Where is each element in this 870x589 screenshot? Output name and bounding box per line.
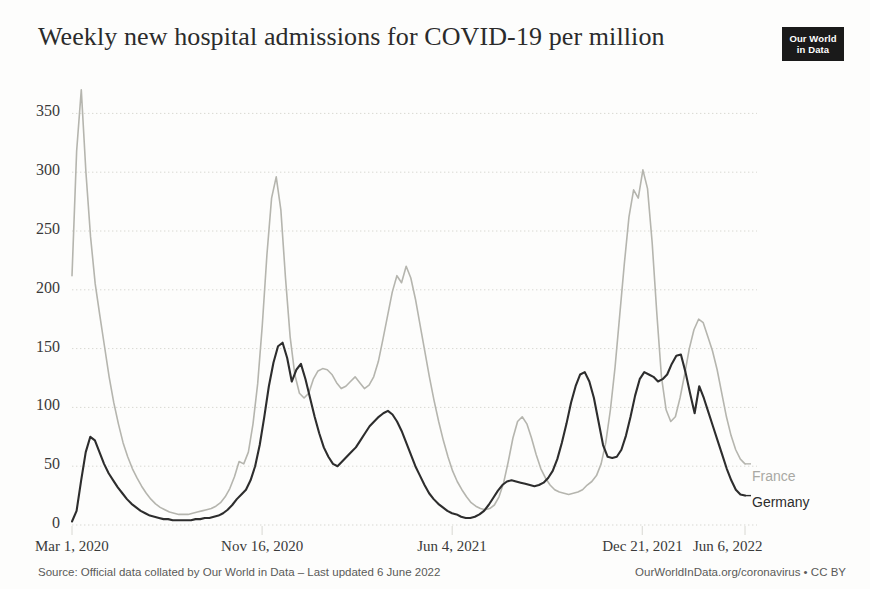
series-lines xyxy=(72,90,751,522)
y-tick-label: 250 xyxy=(20,220,60,238)
y-tick-label: 150 xyxy=(20,338,60,356)
x-axis-ticks xyxy=(72,526,745,535)
y-tick-label: 0 xyxy=(20,514,60,532)
series-label-france: France xyxy=(752,468,796,484)
y-tick-label: 50 xyxy=(20,455,60,473)
y-tick-label: 200 xyxy=(20,279,60,297)
footer-source-text: Source: Official data collated by Our Wo… xyxy=(38,566,440,578)
x-tick-label: Dec 21, 2021 xyxy=(602,538,682,555)
y-tick-label: 350 xyxy=(20,102,60,120)
x-tick-label: Nov 16, 2020 xyxy=(221,538,303,555)
plot-area: 050100150200250300350 Mar 1, 2020Nov 16,… xyxy=(0,0,870,589)
chart-page: Weekly new hospital admissions for COVID… xyxy=(0,0,870,589)
x-tick-label: Jun 6, 2022 xyxy=(693,538,763,555)
series-label-germany: Germany xyxy=(752,494,810,510)
line-chart-svg xyxy=(0,0,870,589)
y-tick-label: 100 xyxy=(20,396,60,414)
y-tick-label: 300 xyxy=(20,161,60,179)
x-tick-label: Jun 4, 2021 xyxy=(417,538,487,555)
series-line-germany xyxy=(72,343,745,522)
footer-credit-link[interactable]: OurWorldInData.org/coronavirus • CC BY xyxy=(635,566,846,578)
x-tick-label: Mar 1, 2020 xyxy=(35,538,109,555)
